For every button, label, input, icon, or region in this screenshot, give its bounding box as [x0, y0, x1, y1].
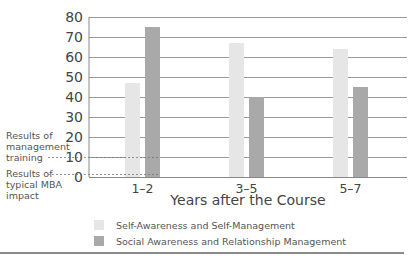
legend-item-social-awareness: Social Awareness and Relationship Manage…: [94, 233, 346, 249]
y-tick-label: 60: [65, 49, 83, 65]
y-axis-ticks: 01020304050607080: [65, 9, 83, 185]
bar: [125, 83, 140, 177]
legend-label: Social Awareness and Relationship Manage…: [116, 236, 346, 247]
y-tick-label: 0: [74, 169, 83, 185]
annotation-line-3: training: [6, 152, 43, 163]
x-tick-label: 1–2: [131, 181, 153, 196]
x-axis-label: Years after the Course: [169, 192, 325, 208]
legend: Self-Awareness and Self-Management Socia…: [94, 217, 346, 249]
y-tick-label: 50: [65, 69, 83, 85]
y-tick-label: 30: [65, 109, 83, 125]
annotation-line-2: typical MBA: [6, 179, 62, 190]
annotation-line-1: Results of: [6, 130, 53, 141]
legend-swatch: [94, 220, 104, 230]
bar: [229, 43, 244, 177]
bar: [333, 49, 348, 177]
annotation-line-3: impact: [6, 190, 39, 201]
annotation-line-1: Results of: [6, 168, 53, 179]
legend-swatch: [94, 236, 104, 246]
y-tick-label: 40: [65, 89, 83, 105]
legend-item-self-awareness: Self-Awareness and Self-Management: [94, 217, 346, 233]
bar: [249, 97, 264, 177]
y-tick-label: 80: [65, 9, 83, 25]
bottom-divider: [0, 252, 404, 254]
y-tick-label: 70: [65, 29, 83, 45]
x-tick-label: 5–7: [339, 181, 361, 196]
legend-label: Self-Awareness and Self-Management: [116, 220, 295, 231]
bar: [353, 87, 368, 177]
annotation-line-2: management: [6, 141, 70, 152]
bars: [125, 27, 368, 177]
bar: [145, 27, 160, 177]
